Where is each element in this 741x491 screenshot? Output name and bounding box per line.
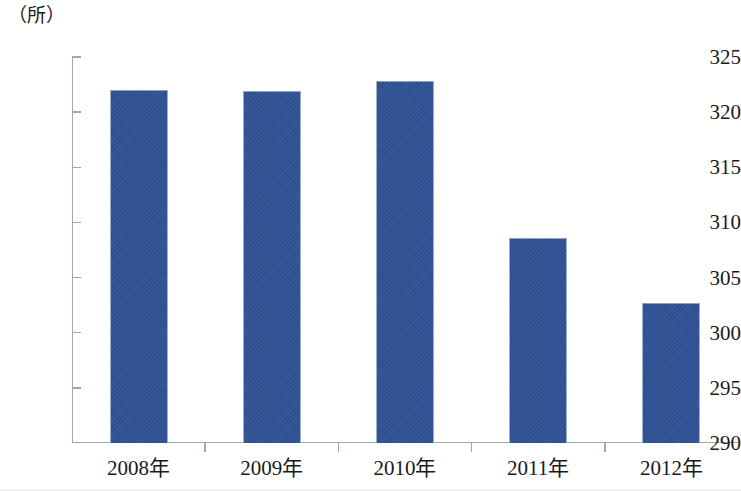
x-axis-tick-mark bbox=[604, 443, 606, 452]
x-axis-tick-mark bbox=[338, 443, 340, 452]
bar-2012年 bbox=[642, 303, 700, 443]
x-axis-tick-mark bbox=[471, 443, 473, 452]
x-axis-tick-label: 2010年 bbox=[338, 455, 471, 481]
y-axis-unit-label: （所） bbox=[8, 4, 65, 28]
x-axis-tick-mark bbox=[204, 443, 206, 452]
bar-2010年 bbox=[376, 81, 434, 443]
bar-2008年 bbox=[110, 90, 168, 443]
bar-2009年 bbox=[243, 91, 301, 443]
x-axis-tick-label: 2012年 bbox=[605, 455, 738, 481]
bar-chart: （所） 290295300305310315320325 2008年2009年2… bbox=[0, 0, 741, 491]
x-axis-tick-label: 2009年 bbox=[205, 455, 338, 481]
x-axis-tick-label: 2011年 bbox=[472, 455, 605, 481]
x-axis-tick-label: 2008年 bbox=[72, 455, 205, 481]
bar-2011年 bbox=[509, 238, 567, 443]
